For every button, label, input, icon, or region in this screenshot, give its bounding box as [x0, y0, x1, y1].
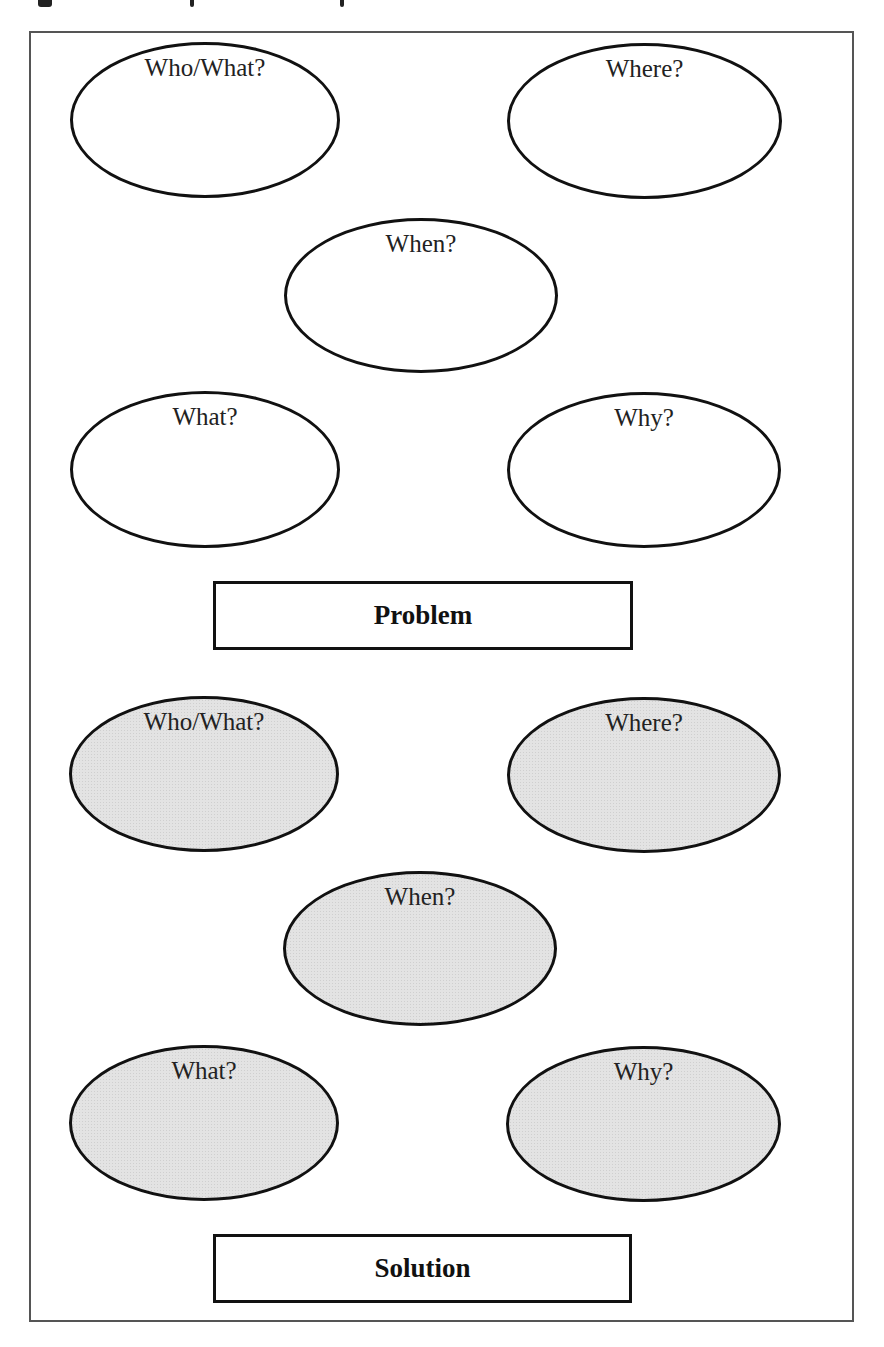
ellipse-label: What?: [72, 1057, 336, 1085]
clipped-caption-fragment: [0, 0, 884, 10]
problem-ellipse-why: Why?: [507, 392, 781, 548]
clipped-glyph: [190, 0, 194, 7]
clipped-glyph: [340, 0, 344, 7]
ellipse-label: When?: [287, 230, 555, 258]
solution-ellipse-what: What?: [69, 1045, 339, 1201]
solution-ellipse-when: When?: [283, 871, 557, 1026]
clipped-glyph: [38, 0, 52, 7]
problem-ellipse-what: What?: [70, 391, 340, 548]
solution-box: Solution: [213, 1234, 632, 1303]
problem-ellipse-where: Where?: [507, 43, 782, 199]
solution-ellipse-who-what: Who/What?: [69, 696, 339, 852]
solution-label: Solution: [374, 1253, 470, 1284]
problem-box: Problem: [213, 581, 633, 650]
solution-ellipse-why: Why?: [506, 1046, 781, 1202]
ellipse-label: Where?: [510, 55, 779, 83]
ellipse-label: Who/What?: [72, 708, 336, 736]
ellipse-label: When?: [286, 883, 554, 911]
ellipse-label: Where?: [510, 709, 778, 737]
ellipse-label: Why?: [510, 404, 778, 432]
solution-ellipse-where: Where?: [507, 697, 781, 853]
ellipse-label: Who/What?: [73, 54, 337, 82]
problem-label: Problem: [374, 600, 472, 631]
problem-ellipse-when: When?: [284, 218, 558, 373]
ellipse-label: Why?: [509, 1058, 778, 1086]
ellipse-label: What?: [73, 403, 337, 431]
problem-ellipse-who-what: Who/What?: [70, 42, 340, 198]
